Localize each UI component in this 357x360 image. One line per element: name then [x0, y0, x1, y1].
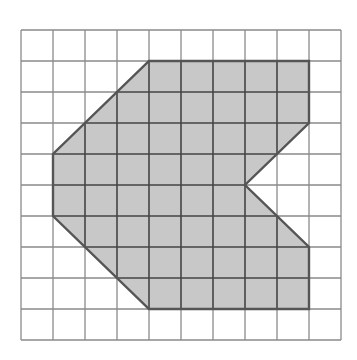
grid-diagram [0, 0, 357, 360]
